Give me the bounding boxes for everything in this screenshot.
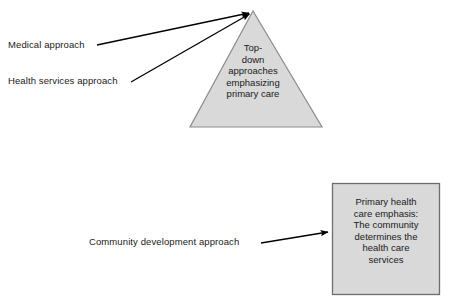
top-down-triangle-text: Top- down approaches emphasizing primary… [207,42,299,100]
triangle-text-line-1: Top- [207,42,299,54]
triangle-text-line-3: approaches [207,65,299,77]
box-text-line-3: The community [336,219,436,231]
diagram-canvas: Medical approach Health services approac… [0,0,450,303]
community-to-box-connector [261,232,328,243]
label-health-services-approach: Health services approach [8,75,118,86]
label-medical-approach: Medical approach [8,39,85,50]
primary-health-care-box-text: Primary health care emphasis: The commun… [336,196,436,266]
triangle-text-line-5: primary care [207,88,299,100]
triangle-text-line-2: down [207,54,299,66]
box-text-line-1: Primary health [336,196,436,208]
triangle-text-line-4: emphasizing [207,77,299,89]
box-text-line-6: services [336,254,436,266]
label-community-development-approach: Community development approach [89,236,239,247]
box-text-line-4: determines the [336,231,436,243]
box-text-line-2: care emphasis: [336,208,436,220]
box-text-line-5: health care [336,242,436,254]
medical-to-triangle-connector [97,13,249,45]
